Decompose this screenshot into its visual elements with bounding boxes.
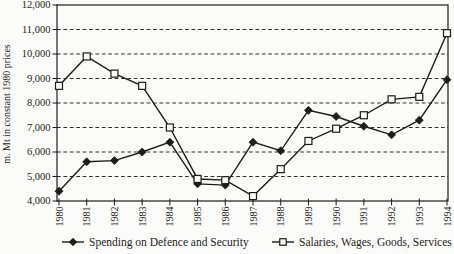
data-point-defence (110, 157, 118, 165)
y-tick-label: 7,000 (27, 122, 51, 133)
data-point-defence (166, 138, 174, 146)
data-point-defence (388, 131, 396, 139)
data-point-salaries (111, 70, 118, 77)
x-tick-label: 1985 (192, 207, 203, 227)
data-point-salaries (139, 82, 146, 89)
x-tick-label: 1994 (442, 207, 453, 227)
series-line-salaries (59, 33, 447, 196)
x-tick-label: 1980 (54, 207, 65, 227)
data-point-defence (277, 147, 285, 155)
x-tick-label: 1988 (275, 207, 286, 227)
data-point-salaries (305, 137, 312, 144)
y-tick-label: 9,000 (27, 73, 51, 84)
data-point-defence (360, 122, 368, 130)
data-point-salaries (277, 166, 284, 173)
y-tick-label: 4,000 (27, 195, 51, 206)
data-point-salaries (83, 53, 90, 60)
x-tick-label: 1986 (220, 207, 231, 227)
y-tick-label: 12,000 (22, 0, 51, 10)
data-point-salaries (416, 93, 423, 100)
x-tick-label: 1981 (81, 207, 92, 227)
data-point-salaries (360, 112, 367, 119)
x-tick-label: 1990 (331, 207, 342, 227)
data-point-salaries (444, 30, 451, 37)
data-point-defence (332, 112, 340, 120)
y-axis-title: m. Mt in constant 1980 prices (1, 44, 12, 164)
data-point-salaries (166, 124, 173, 131)
legend-salaries-label: Salaries, Wages, Goods, Services (299, 236, 452, 249)
chart-canvas: 4,0005,0006,0007,0008,0009,00010,00011,0… (0, 0, 454, 254)
y-tick-label: 5,000 (27, 171, 51, 182)
data-point-defence (304, 106, 312, 114)
data-point-salaries (250, 193, 257, 200)
legend-salaries-marker (280, 239, 287, 246)
data-point-defence (443, 76, 451, 84)
x-tick-label: 1993 (414, 207, 425, 227)
x-tick-label: 1984 (164, 207, 175, 227)
data-point-salaries (388, 96, 395, 103)
data-point-salaries (333, 125, 340, 132)
x-tick-label: 1987 (248, 207, 259, 227)
x-tick-label: 1983 (137, 207, 148, 227)
data-point-defence (249, 138, 257, 146)
x-tick-label: 1992 (386, 207, 397, 227)
data-point-defence (415, 116, 423, 124)
y-tick-label: 8,000 (27, 97, 51, 108)
legend-defence-marker (69, 238, 77, 246)
data-point-salaries (56, 82, 63, 89)
x-tick-label: 1982 (109, 207, 120, 227)
y-tick-label: 11,000 (22, 24, 51, 35)
x-tick-label: 1989 (303, 207, 314, 227)
data-point-defence (138, 148, 146, 156)
data-point-salaries (222, 177, 229, 184)
legend-defence-label: Spending on Defence and Security (89, 236, 249, 249)
line-chart-figure: 4,0005,0006,0007,0008,0009,00010,00011,0… (0, 0, 454, 254)
y-tick-label: 6,000 (27, 146, 51, 157)
y-tick-label: 10,000 (22, 48, 51, 59)
data-point-salaries (194, 175, 201, 182)
x-tick-label: 1991 (358, 207, 369, 227)
